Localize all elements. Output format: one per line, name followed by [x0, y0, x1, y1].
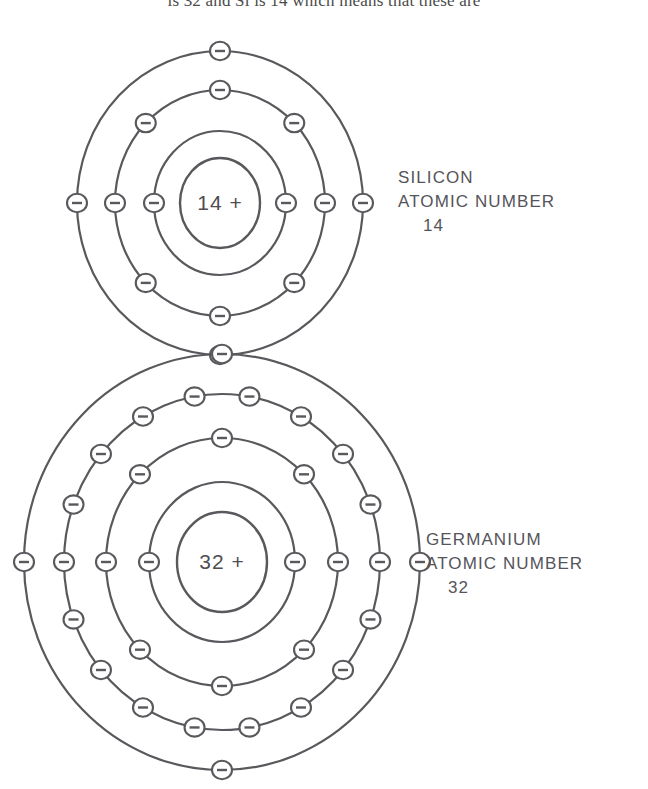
electron [353, 194, 373, 212]
electron [64, 610, 84, 628]
atom-group-silicon: 14 + [67, 42, 373, 364]
electron [294, 640, 314, 658]
electron [130, 465, 150, 483]
electron [276, 194, 296, 212]
electron [96, 553, 116, 571]
electron [105, 194, 125, 212]
electron [139, 553, 159, 571]
electron [291, 407, 311, 425]
electron [328, 553, 348, 571]
electron [212, 761, 232, 779]
germanium-element-name: GERMANIUM [426, 528, 583, 552]
silicon-atomic-number-caption: ATOMIC NUMBER [398, 190, 555, 214]
electron [239, 387, 259, 405]
electron [185, 387, 205, 405]
electron [210, 42, 230, 60]
electron [64, 495, 84, 513]
germanium-label-block: GERMANIUM ATOMIC NUMBER 32 [426, 528, 583, 600]
electron [360, 610, 380, 628]
electron [284, 274, 304, 292]
silicon-label-block: SILICON ATOMIC NUMBER 14 [398, 166, 555, 238]
electron [333, 661, 353, 679]
electron [370, 553, 390, 571]
electron [210, 81, 230, 99]
atom-group-germanium: 32 + [14, 345, 430, 779]
electron [360, 495, 380, 513]
germanium-atomic-number-value: 32 [426, 576, 583, 600]
silicon-element-name: SILICON [398, 166, 555, 190]
electron [291, 698, 311, 716]
electron [185, 718, 205, 736]
diagram-canvas: is 32 and Si is 14 which means that thes… [0, 0, 648, 789]
nucleus-charge-label-silicon: 14 + [197, 191, 242, 214]
electron [315, 194, 335, 212]
electron [239, 718, 259, 736]
electron [212, 677, 232, 695]
electron [91, 661, 111, 679]
electron [210, 307, 230, 325]
electron [144, 194, 164, 212]
electron [130, 640, 150, 658]
electron [294, 465, 314, 483]
nucleus-charge-label-germanium: 32 + [199, 550, 244, 573]
germanium-atomic-number-caption: ATOMIC NUMBER [426, 552, 583, 576]
electron [284, 114, 304, 132]
electron [333, 445, 353, 463]
electron [212, 429, 232, 447]
electron [14, 553, 34, 571]
electron [133, 407, 153, 425]
electron [136, 274, 156, 292]
electron [133, 698, 153, 716]
electron [212, 345, 232, 363]
electron [67, 194, 87, 212]
electron [285, 553, 305, 571]
electron [54, 553, 74, 571]
silicon-atomic-number-value: 14 [398, 214, 555, 238]
electron [136, 114, 156, 132]
electron [91, 445, 111, 463]
